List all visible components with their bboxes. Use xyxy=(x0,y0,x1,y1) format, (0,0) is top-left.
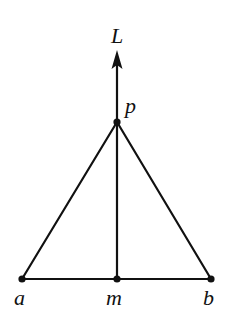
segment-ap xyxy=(22,122,117,279)
perpendicular-bisector-diagram: L p a m b xyxy=(0,0,232,327)
label-L: L xyxy=(110,23,123,48)
segment-bp xyxy=(117,122,211,279)
label-a: a xyxy=(14,285,25,310)
point-p xyxy=(113,118,120,125)
point-a xyxy=(18,275,25,282)
label-p: p xyxy=(123,93,136,118)
label-b: b xyxy=(203,285,214,310)
point-b xyxy=(207,275,214,282)
point-m xyxy=(113,275,120,282)
label-m: m xyxy=(106,285,122,310)
